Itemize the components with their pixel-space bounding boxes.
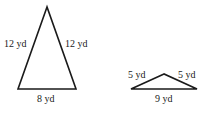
triangle-1-right-side-label: 12 yd — [65, 38, 88, 49]
triangle-2-base-label: 9 yd — [155, 93, 173, 104]
triangle-2-right-side-label: 5 yd — [178, 69, 196, 80]
triangle-1-left-side-label: 12 yd — [4, 38, 27, 49]
triangle-2-left-side-label: 5 yd — [128, 69, 146, 80]
triangle-1-base-label: 8 yd — [37, 93, 55, 104]
triangles-diagram: 12 yd 12 yd 8 yd 5 yd 5 yd 9 yd — [0, 0, 198, 113]
